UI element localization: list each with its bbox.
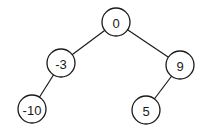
tree-nodes: 0 -3 9 -10 5 bbox=[18, 8, 194, 124]
tree-node-root: 0 bbox=[102, 8, 130, 36]
node-label: 9 bbox=[176, 59, 183, 74]
node-label: -3 bbox=[55, 57, 67, 72]
tree-node-right-left-grandchild: 5 bbox=[132, 96, 160, 124]
tree-node-right-child: 9 bbox=[166, 51, 194, 79]
node-label: -10 bbox=[23, 103, 42, 118]
tree-node-left-left-grandchild: -10 bbox=[18, 95, 46, 123]
tree-node-left-child: -3 bbox=[47, 49, 75, 77]
node-label: 0 bbox=[112, 16, 119, 31]
binary-tree-diagram: 0 -3 9 -10 5 bbox=[0, 0, 205, 136]
node-label: 5 bbox=[142, 104, 149, 119]
